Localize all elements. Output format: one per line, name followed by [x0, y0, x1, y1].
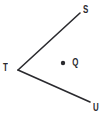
point-q-dot: [61, 61, 65, 65]
angle-diagram-canvas: [0, 0, 105, 117]
point-label-q: Q: [72, 57, 78, 68]
ray-t-to-s: [18, 13, 80, 70]
geometry-figure: S T U Q: [0, 0, 105, 117]
point-label-u: U: [93, 102, 99, 113]
point-label-t: T: [3, 62, 8, 73]
point-label-s: S: [83, 4, 88, 15]
ray-t-to-u: [18, 70, 90, 102]
